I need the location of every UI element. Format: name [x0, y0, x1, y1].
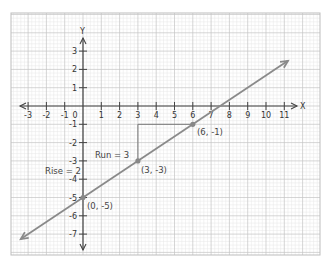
point-label-2: (6, -1): [197, 127, 223, 137]
rise-label: Rise = 2: [45, 166, 81, 176]
x-tick-label: -2: [42, 111, 50, 120]
x-tick-label: 4: [154, 111, 159, 120]
x-tick-label: 2: [117, 111, 122, 120]
point-label-0: (0, -5): [87, 201, 113, 211]
y-tick-label: -5: [69, 194, 77, 203]
x-axis-label: X: [300, 102, 306, 111]
y-tick-label: -1: [69, 120, 77, 129]
x-tick-label: 10: [261, 111, 271, 120]
x-tick-label: 6: [190, 111, 195, 120]
y-axis-label: Y: [79, 27, 85, 36]
data-point: [80, 195, 85, 200]
y-tick-label: 1: [72, 84, 77, 93]
y-tick-label: 3: [72, 47, 77, 56]
x-tick-label: 9: [245, 111, 250, 120]
run-label: Run = 3: [95, 150, 129, 160]
y-tick-label: 2: [72, 65, 77, 74]
point-label-1: (3, -3): [141, 165, 167, 175]
coordinate-plane-chart: -3-2-101234567891011321-1-2-3-4-5-6-7 X …: [0, 0, 327, 264]
y-tick-label: -6: [69, 212, 77, 221]
y-tick-label: -2: [69, 139, 77, 148]
x-tick-label: 11: [279, 111, 289, 120]
data-point: [135, 158, 140, 163]
x-tick-label: 5: [172, 111, 177, 120]
y-tick-label: -3: [69, 157, 77, 166]
axes: [20, 38, 297, 250]
y-tick-label: -4: [69, 175, 77, 184]
x-tick-label: 8: [227, 111, 232, 120]
x-tick-label: 1: [99, 111, 104, 120]
y-tick-label: -7: [69, 230, 77, 239]
data-point: [190, 122, 195, 127]
x-tick-label: -1: [61, 111, 69, 120]
x-tick-label: -3: [24, 111, 32, 120]
x-tick-label: 3: [135, 111, 140, 120]
minor-grid: [11, 13, 320, 255]
x-tick-label: 0: [72, 111, 77, 120]
